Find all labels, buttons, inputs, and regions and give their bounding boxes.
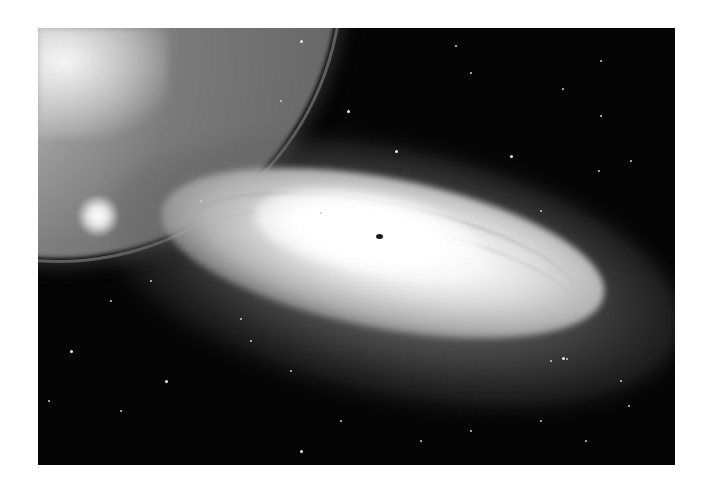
star bbox=[540, 210, 542, 212]
star bbox=[598, 170, 600, 172]
star bbox=[510, 155, 513, 158]
galaxy-photograph bbox=[38, 28, 675, 465]
star bbox=[420, 440, 422, 442]
core-spot bbox=[376, 234, 383, 239]
star bbox=[290, 370, 292, 372]
star bbox=[165, 380, 168, 383]
star bbox=[620, 380, 622, 382]
star bbox=[110, 300, 112, 302]
star bbox=[48, 400, 50, 402]
star bbox=[566, 358, 568, 360]
star bbox=[455, 45, 457, 47]
star bbox=[250, 340, 252, 342]
star bbox=[600, 115, 602, 117]
star bbox=[540, 420, 542, 422]
star bbox=[470, 72, 472, 74]
star bbox=[628, 405, 630, 407]
star bbox=[562, 88, 564, 90]
star bbox=[550, 360, 552, 362]
planet-highlight bbox=[38, 28, 168, 138]
star bbox=[120, 410, 122, 412]
bright-knot bbox=[78, 196, 118, 236]
star bbox=[150, 280, 152, 282]
star bbox=[630, 160, 632, 162]
star bbox=[200, 200, 202, 202]
star bbox=[320, 212, 322, 214]
star bbox=[300, 450, 303, 453]
star bbox=[70, 350, 73, 353]
star bbox=[340, 420, 342, 422]
star bbox=[280, 100, 282, 102]
star bbox=[240, 318, 242, 320]
star bbox=[585, 440, 587, 442]
star bbox=[395, 150, 398, 153]
star bbox=[470, 430, 472, 432]
star bbox=[600, 60, 602, 62]
star bbox=[562, 357, 565, 360]
star bbox=[347, 110, 350, 113]
star bbox=[300, 40, 303, 43]
